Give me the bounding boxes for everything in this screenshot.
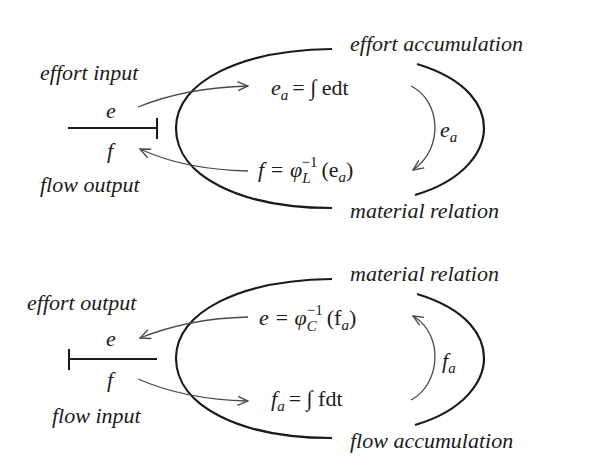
flow-output-label: flow output <box>40 172 141 197</box>
bond-flow-symbol: f <box>107 138 116 163</box>
material-relation-label: material relation <box>350 198 499 223</box>
bond-effort-symbol: e <box>106 98 116 123</box>
material-relation-label: material relation <box>350 261 499 286</box>
effort-input-label: effort input <box>40 60 139 85</box>
effort-accumulation-equation: ea= ∫ edt <box>271 75 349 103</box>
effort-output-label: effort output <box>27 290 137 315</box>
material-relation-equation: f = φL−1(ea) <box>258 154 353 186</box>
flow-input-label: flow input <box>52 403 142 428</box>
inductive-storage-diagram: effort input e f flow output effort accu… <box>40 31 523 223</box>
flow-accumulation-label: flow accumulation <box>350 428 513 453</box>
capacitive-storage-diagram: effort output e f flow input material re… <box>27 261 513 453</box>
state-loop-arrow <box>411 316 435 400</box>
state-variable-label: ea <box>440 117 457 145</box>
bond-graph-figure: effort input e f flow output effort accu… <box>0 0 590 476</box>
bond-flow-symbol: f <box>107 367 116 392</box>
bond-effort-symbol: e <box>106 326 116 351</box>
flow-accumulation-equation: fa= ∫ fdt <box>271 386 343 414</box>
material-relation-equation: e = φC−1(fa) <box>259 302 356 334</box>
state-loop-arrow <box>411 86 435 170</box>
state-variable-label: fa <box>442 348 456 376</box>
effort-accumulation-label: effort accumulation <box>350 31 523 56</box>
